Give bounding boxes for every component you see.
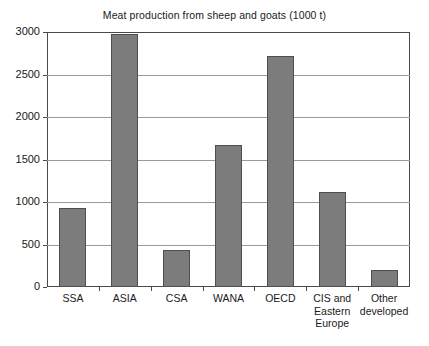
x-axis-tick-mark [358, 287, 359, 291]
y-axis-tick-mark [43, 287, 47, 288]
bar [111, 34, 138, 287]
x-axis-tick-mark [151, 287, 152, 291]
x-axis-tick-label-line: developed [349, 305, 419, 318]
y-axis-tick-label: 1000 [0, 196, 40, 207]
x-axis-tick-label-line: Europe [297, 317, 367, 330]
x-axis-tick-mark [306, 287, 307, 291]
bar [215, 145, 242, 287]
x-axis-tick-label: Otherdeveloped [349, 292, 419, 317]
y-axis-tick-label: 1500 [0, 154, 40, 165]
y-axis-tick-label: 3000 [0, 26, 40, 37]
y-axis-tick-label: 0 [0, 281, 40, 292]
bar [319, 192, 346, 287]
y-axis-tick-label: 500 [0, 239, 40, 250]
bars-layer [47, 32, 410, 287]
bar [59, 208, 86, 287]
bar [371, 270, 398, 287]
bar-chart: Meat production from sheep and goats (10… [0, 0, 429, 346]
bar [267, 56, 294, 287]
x-axis-tick-mark [203, 287, 204, 291]
y-axis-tick-label: 2000 [0, 111, 40, 122]
x-axis-tick-mark [254, 287, 255, 291]
chart-title: Meat production from sheep and goats (10… [0, 9, 429, 22]
x-axis-tick-label-line: Other [349, 292, 419, 305]
y-axis-tick-label: 2500 [0, 69, 40, 80]
bar [163, 250, 190, 287]
x-axis-tick-mark [99, 287, 100, 291]
